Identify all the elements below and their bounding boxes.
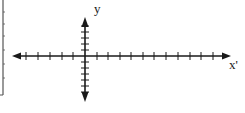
y-axis-down-arrow-icon <box>82 92 89 102</box>
x-axis-left-arrow-icon <box>12 53 21 60</box>
x-axis-label: x' <box>229 58 238 71</box>
axes-graphic <box>0 0 245 113</box>
y-axis-label: y <box>94 2 101 15</box>
coordinate-diagram: y x' <box>0 0 245 113</box>
